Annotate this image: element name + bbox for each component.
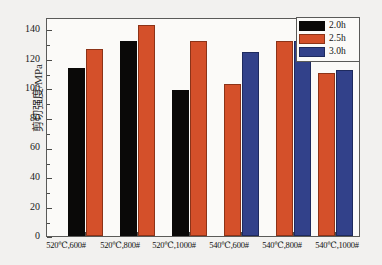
legend: 2.0h 2.5h 3.0h: [296, 17, 360, 62]
y-axis-tick-20: [47, 208, 52, 209]
x-tick-label-540c-600: 540℃,600#: [201, 240, 257, 250]
y-axis-tick-80: [47, 119, 52, 120]
legend-label: 2.0h: [329, 21, 346, 31]
bar-2.0h[interactable]: [120, 41, 137, 236]
legend-swatch-icon: [299, 47, 325, 57]
x-tick-label-520c-800: 520℃,800#: [92, 240, 148, 250]
x-axis-tick: [189, 232, 190, 236]
chart-screenshot: 剪切强度/MPa 140 120 100 80 60 40 20 0: [0, 0, 382, 265]
bar-group-520c-1000: [171, 19, 208, 236]
y-tick-label-20: 20: [14, 202, 40, 212]
y-tick-label-60: 60: [14, 142, 40, 152]
bar-3.0h[interactable]: [336, 70, 353, 236]
y-axis-minor-tick: [47, 104, 50, 105]
y-tick-label-100: 100: [14, 83, 40, 93]
y-tick-label-140: 140: [14, 24, 40, 34]
x-tick-label-540c-1000: 540℃,1000#: [307, 240, 367, 250]
y-tick-label-40: 40: [14, 172, 40, 182]
y-axis-tick-40: [47, 178, 52, 179]
bar-2.0h[interactable]: [68, 68, 85, 236]
x-axis-tick: [241, 232, 242, 236]
legend-swatch-icon: [299, 21, 325, 31]
bar-group-540c-600: [223, 19, 260, 236]
y-axis-tick-100: [47, 89, 52, 90]
y-axis-tick-140: [47, 30, 52, 31]
y-axis-minor-tick: [47, 223, 50, 224]
bar-2.5h[interactable]: [276, 41, 293, 236]
y-axis-minor-tick: [47, 75, 50, 76]
y-axis-minor-tick: [47, 193, 50, 194]
y-tick-label-80: 80: [14, 113, 40, 123]
legend-label: 2.5h: [329, 34, 346, 44]
y-axis-tick-120: [47, 60, 52, 61]
x-axis-tick: [293, 232, 294, 236]
x-tick-label-520c-1000: 520℃,1000#: [145, 240, 203, 250]
bar-group-520c-800: [119, 19, 156, 236]
x-tick-label-520c-600: 520℃,600#: [38, 240, 94, 250]
bar-2.0h[interactable]: [172, 90, 189, 236]
x-axis-tick: [85, 232, 86, 236]
y-axis-minor-tick: [47, 164, 50, 165]
bar-group-520c-600: [67, 19, 104, 236]
y-axis-minor-tick: [47, 45, 50, 46]
legend-entry-3.0h: 3.0h: [299, 46, 357, 58]
bar-2.5h[interactable]: [190, 41, 207, 236]
legend-entry-2.0h: 2.0h: [299, 20, 357, 32]
legend-label: 3.0h: [329, 47, 346, 57]
bar-2.5h[interactable]: [86, 49, 103, 236]
x-tick-label-540c-800: 540℃,800#: [254, 240, 310, 250]
bar-3.0h[interactable]: [294, 41, 311, 236]
y-tick-label-120: 120: [14, 54, 40, 64]
y-axis-tick-60: [47, 149, 52, 150]
legend-swatch-icon: [299, 34, 325, 44]
legend-entry-2.5h: 2.5h: [299, 33, 357, 45]
bar-2.5h[interactable]: [224, 84, 241, 236]
y-axis-minor-tick: [47, 134, 50, 135]
bar-2.5h[interactable]: [138, 25, 155, 236]
x-axis-tick: [335, 232, 336, 236]
bar-3.0h[interactable]: [242, 52, 259, 236]
x-axis-tick: [137, 232, 138, 236]
bar-2.5h[interactable]: [318, 73, 335, 236]
y-axis-tick-0: [47, 237, 52, 238]
y-tick-label-0: 0: [14, 231, 40, 241]
